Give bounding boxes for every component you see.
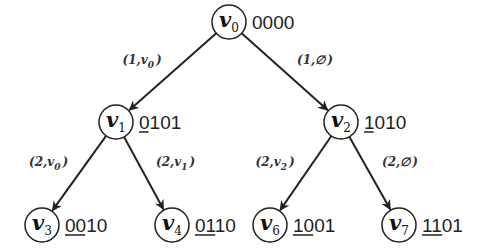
node-code: 1001 <box>293 215 335 236</box>
edge-v1-v3: (2,v0) <box>29 136 106 211</box>
node-v2: v21010 <box>324 105 406 139</box>
node-v4: v40110 <box>155 208 236 242</box>
edge-label: (1,∅) <box>297 53 333 67</box>
node-v6: v61001 <box>253 208 335 242</box>
edge-v2-v7: (2,∅) <box>349 137 418 210</box>
edge-v0-v1: (1,v0) <box>123 33 217 110</box>
node-code: 0010 <box>65 215 107 236</box>
edge-v2-v6: (2,v2) <box>256 136 332 210</box>
edge-label: (2,∅) <box>382 155 418 169</box>
edge-label: (2,v1) <box>156 155 195 172</box>
node-code: 1101 <box>422 215 463 236</box>
edge-label: (2,v2) <box>256 155 295 172</box>
edge-v0-v2: (1,∅) <box>242 33 333 110</box>
node-code: 1010 <box>364 112 406 133</box>
tree-diagram: (1,v0)(1,∅)(2,v0)(2,v1)(2,v2)(2,∅) v0000… <box>0 0 488 252</box>
node-code: 0000 <box>252 12 294 33</box>
edge-arrow <box>349 137 390 210</box>
edge-arrow <box>242 33 328 110</box>
node-v7: v71101 <box>382 208 463 242</box>
node-code: 0110 <box>195 215 236 236</box>
edge-label: (2,v0) <box>29 155 68 172</box>
edge-label: (1,v0) <box>123 53 162 70</box>
edge-v1-v4: (2,v1) <box>124 137 195 209</box>
node-v1: v10101 <box>99 105 181 139</box>
node-v3: v30010 <box>25 208 107 242</box>
node-v0: v00000 <box>212 5 294 39</box>
edge-arrow <box>129 33 216 110</box>
edge-arrow <box>280 136 331 210</box>
node-code: 0101 <box>139 112 181 133</box>
edge-arrow <box>53 136 107 211</box>
edge-arrow <box>124 137 163 209</box>
